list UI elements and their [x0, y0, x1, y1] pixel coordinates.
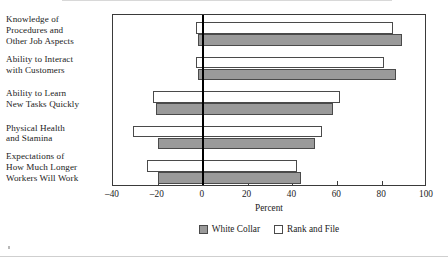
- bar-white-collar-0: [198, 34, 402, 46]
- category-label-line: and Stamina: [6, 133, 110, 144]
- bar-rank-and-file-0: [196, 22, 393, 34]
- x-tick-label-100: 100: [419, 188, 433, 200]
- plot-area: [112, 14, 426, 186]
- category-label-line: Procedures and: [6, 25, 110, 36]
- category-label-0: Knowledge ofProcedures andOther Job Aspe…: [6, 14, 110, 47]
- legend-item-rank-and-file: Rank and File: [274, 224, 339, 234]
- x-axis-tick-labels: –40–20020406080100: [112, 188, 426, 202]
- category-label-line: Physical Health: [6, 123, 110, 134]
- legend-item-white-collar: White Collar: [199, 224, 260, 234]
- bar-rank-and-file-3: [133, 126, 321, 138]
- category-label-1: Ability to Interactwith Customers: [6, 54, 110, 76]
- x-tick-label-80: 80: [376, 188, 385, 200]
- x-tick-label-40: 40: [287, 188, 296, 200]
- chart-legend: White Collar Rank and File: [112, 224, 426, 234]
- category-label-4: Expectations ofHow Much LongerWorkers Wi…: [6, 151, 110, 184]
- bar-rank-and-file-2: [153, 91, 339, 103]
- x-tick-mark-80: [382, 181, 383, 185]
- category-label-line: Other Job Aspects: [6, 36, 110, 47]
- x-tick-label--40: –40: [105, 188, 119, 200]
- legend-swatch-white-collar-icon: [199, 225, 208, 234]
- category-label-line: Ability to Learn: [6, 88, 110, 99]
- category-label-line: Workers Will Work: [6, 173, 110, 184]
- category-label-3: Physical Healthand Stamina: [6, 123, 110, 145]
- category-label-line: Ability to Interact: [6, 54, 110, 65]
- x-tick-label-0: 0: [199, 188, 204, 200]
- bar-white-collar-1: [198, 69, 395, 81]
- bar-white-collar-4: [158, 172, 302, 184]
- bar-white-collar-2: [156, 103, 333, 115]
- scan-artifact-top-rule: [62, 0, 392, 1]
- bar-rank-and-file-1: [196, 57, 384, 69]
- figure-container: Knowledge ofProcedures andOther Job Aspe…: [0, 0, 448, 258]
- legend-label-white-collar: White Collar: [212, 224, 260, 234]
- bar-white-collar-3: [158, 138, 315, 150]
- zero-reference-line: [202, 15, 204, 185]
- category-label-line: with Customers: [6, 65, 110, 76]
- category-label-line: New Tasks Quickly: [6, 99, 110, 110]
- category-label-2: Ability to LearnNew Tasks Quickly: [6, 88, 110, 110]
- scan-artifact-bottom-rule: [0, 256, 448, 257]
- x-tick-label-60: 60: [332, 188, 341, 200]
- category-label-line: How Much Longer: [6, 162, 110, 173]
- legend-label-rank-and-file: Rank and File: [287, 224, 339, 234]
- x-tick-label--20: –20: [150, 188, 164, 200]
- bars-layer: [113, 15, 425, 185]
- bar-rank-and-file-4: [147, 160, 297, 172]
- legend-swatch-rank-and-file-icon: [274, 225, 283, 234]
- scan-artifact-speck: [8, 246, 10, 249]
- x-axis-title: Percent: [112, 203, 426, 213]
- x-tick-label-20: 20: [242, 188, 251, 200]
- category-axis-labels: Knowledge ofProcedures andOther Job Aspe…: [6, 14, 110, 186]
- x-tick-mark-60: [337, 181, 338, 185]
- category-label-line: Expectations of: [6, 151, 110, 162]
- category-label-line: Knowledge of: [6, 14, 110, 25]
